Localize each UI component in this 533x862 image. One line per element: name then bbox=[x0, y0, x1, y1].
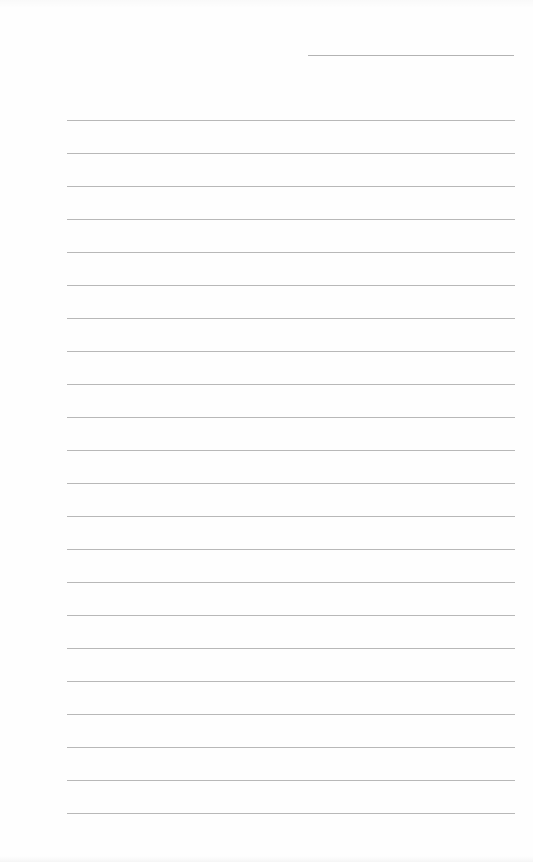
ruled-line bbox=[67, 582, 515, 583]
ruled-line bbox=[67, 252, 515, 253]
ruled-line bbox=[67, 714, 515, 715]
ruled-line bbox=[67, 120, 515, 121]
ruled-line bbox=[67, 186, 515, 187]
scan-shadow-bottom bbox=[0, 856, 533, 862]
ruled-line bbox=[67, 681, 515, 682]
lined-paper-page bbox=[0, 0, 533, 862]
ruled-line bbox=[67, 648, 515, 649]
ruled-line bbox=[67, 219, 515, 220]
ruled-line bbox=[67, 549, 515, 550]
ruled-line bbox=[67, 318, 515, 319]
ruled-line bbox=[67, 351, 515, 352]
ruled-line bbox=[67, 450, 515, 451]
ruled-line bbox=[67, 780, 515, 781]
ruled-line bbox=[67, 615, 515, 616]
ruled-line bbox=[67, 285, 515, 286]
ruled-line bbox=[67, 384, 515, 385]
ruled-line bbox=[67, 417, 515, 418]
ruled-line bbox=[67, 813, 515, 814]
ruled-line bbox=[67, 516, 515, 517]
ruled-line bbox=[67, 483, 515, 484]
ruled-line bbox=[67, 747, 515, 748]
ruled-line bbox=[67, 153, 515, 154]
ruled-lines bbox=[0, 0, 533, 862]
